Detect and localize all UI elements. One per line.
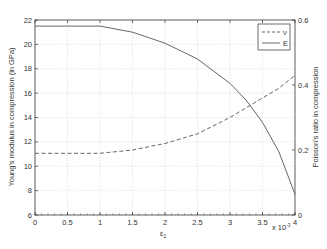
y-tick-label: 8 (28, 186, 32, 195)
x-multiplier: x 10-3 (272, 223, 291, 232)
x-tick-label: 1 (98, 218, 102, 227)
x-tick-label: 4 (293, 218, 297, 227)
legend: ν E (258, 24, 290, 50)
x-tick-label: 3.5 (257, 218, 267, 227)
x-tick-label: 3 (228, 218, 232, 227)
y-tick-label: 14 (24, 113, 32, 122)
y-tick-label: 12 (24, 137, 32, 146)
x-tick-label: 0.5 (62, 218, 72, 227)
y-tick-label: 22 (24, 16, 32, 25)
y-tick-label: 20 (24, 40, 32, 49)
y-axis-label: Young's modulus in compression (in GPa) (7, 47, 16, 187)
y-tick-label: 18 (24, 64, 32, 73)
legend-label-e: E (283, 39, 288, 48)
y2-axis-label: Poisson's ratio in compression (311, 66, 320, 167)
x-axis-label: ε1 (160, 229, 166, 239)
y2-tick-label: 0.2 (298, 146, 308, 155)
y2-tick-label: 0.6 (298, 16, 308, 25)
legend-label-nu: ν (283, 28, 287, 37)
y-tick-label: 10 (24, 162, 32, 171)
y-tick-label: 16 (24, 89, 32, 98)
x-tick-label: 2.5 (192, 218, 202, 227)
x-tick-label: 0 (33, 218, 37, 227)
line-chart: 00.511.522.533.54681012141618202200.20.4… (0, 0, 327, 249)
x-tick-label: 2 (163, 218, 167, 227)
y2-tick-label: 0 (298, 211, 302, 220)
x-tick-label: 1.5 (127, 218, 137, 227)
y-tick-label: 6 (28, 211, 32, 220)
y2-tick-label: 0.4 (298, 81, 308, 90)
grid-lines (35, 20, 295, 215)
